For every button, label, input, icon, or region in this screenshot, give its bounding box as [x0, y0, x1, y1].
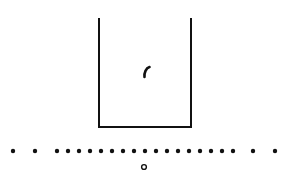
open-circle	[142, 165, 147, 170]
particle-stroke	[144, 67, 149, 77]
dot	[231, 149, 235, 153]
dot	[77, 149, 81, 153]
dot	[66, 149, 70, 153]
dot	[11, 149, 15, 153]
dot	[187, 149, 191, 153]
dot	[132, 149, 136, 153]
dot	[165, 149, 169, 153]
dot	[251, 149, 255, 153]
particle-glyph	[144, 67, 149, 77]
dot	[121, 149, 125, 153]
dot	[220, 149, 224, 153]
dot	[88, 149, 92, 153]
dot	[143, 149, 147, 153]
dot	[33, 149, 37, 153]
dot	[198, 149, 202, 153]
dot	[176, 149, 180, 153]
diagram-canvas	[0, 0, 289, 179]
dot	[154, 149, 158, 153]
row-of-dots	[11, 149, 277, 153]
dot	[209, 149, 213, 153]
dot	[273, 149, 277, 153]
dot	[99, 149, 103, 153]
dot	[110, 149, 114, 153]
dot	[55, 149, 59, 153]
open-circle-marker	[142, 165, 147, 170]
